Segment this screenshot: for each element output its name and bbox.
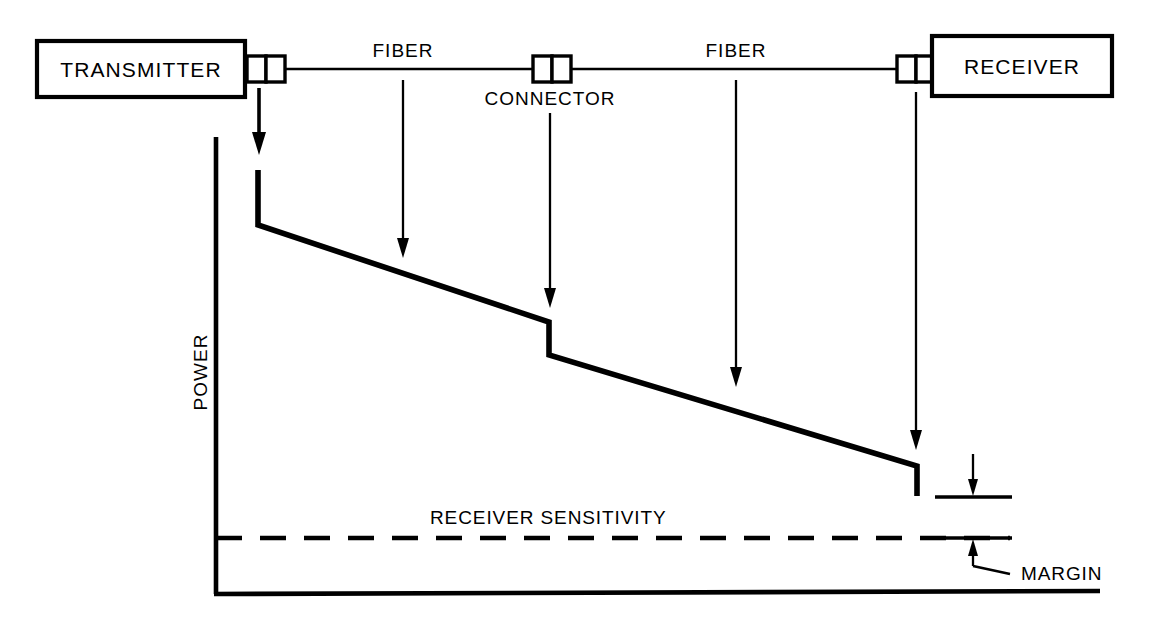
power-budget-diagram: TRANSMITTER xyxy=(0,0,1156,636)
margin-top-arrow xyxy=(968,454,978,496)
connector-callout-arrow xyxy=(544,113,556,308)
inline-connector-label: CONNECTOR xyxy=(484,88,615,109)
receiver-sensitivity-group: RECEIVER SENSITIVITY xyxy=(216,507,1010,538)
transmitter-block: TRANSMITTER xyxy=(37,41,245,97)
receiver-label: RECEIVER xyxy=(964,55,1080,78)
fiber-span-1-callout-arrow xyxy=(397,80,409,258)
margin-label: MARGIN xyxy=(1021,563,1102,584)
transmitter-pigtail-connector xyxy=(247,56,285,82)
transmitter-callout-arrow xyxy=(252,88,266,155)
fiber-span-1-label: FIBER xyxy=(373,40,434,61)
transmitter-connector-cell-left xyxy=(247,56,266,82)
callout-arrows xyxy=(252,80,922,450)
transmitter-connector-cell-right xyxy=(266,56,285,82)
margin-bottom-arrow xyxy=(968,539,1010,574)
receiver-block: RECEIVER xyxy=(932,36,1112,96)
margin-annotation: MARGIN xyxy=(935,454,1102,584)
fiber-span-2-callout-arrow xyxy=(730,80,742,387)
x-axis xyxy=(214,591,1100,594)
figure-root: TRANSMITTER xyxy=(0,0,1156,636)
margin-leader-line xyxy=(973,566,1010,574)
receiver-callout-arrow xyxy=(910,92,922,450)
fiber-span-2-label: FIBER xyxy=(706,40,767,61)
inline-connector-cell-right xyxy=(552,56,571,82)
inline-connector-cell-left xyxy=(533,56,552,82)
schematic-row: TRANSMITTER xyxy=(37,36,1112,109)
receiver-sensitivity-label: RECEIVER SENSITIVITY xyxy=(430,507,667,528)
y-axis-label: POWER xyxy=(190,334,211,411)
power-budget-curve xyxy=(258,170,917,496)
inline-connector xyxy=(533,56,571,82)
power-curve-path xyxy=(258,170,917,496)
receiver-pigtail-connector xyxy=(897,56,935,82)
receiver-connector-cell-left xyxy=(897,56,916,82)
transmitter-label: TRANSMITTER xyxy=(60,58,221,81)
